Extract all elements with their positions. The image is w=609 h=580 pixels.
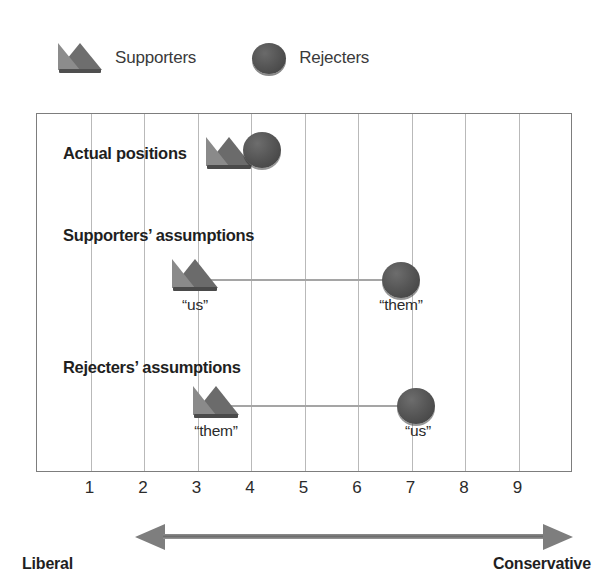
x-tick-2: 2 [128,478,158,498]
annotation-us-row2: “us” [155,296,235,314]
annotation-us-row3: “us” [378,422,458,440]
gridline-6 [358,114,359,471]
connector-line-row2 [188,279,403,281]
marker-circle-rejecters-row1 [243,132,281,168]
arrow-right-icon [543,524,573,550]
marker-circle-rejecters-row2 [382,262,420,298]
axis-label-liberal: Liberal [22,555,73,573]
x-tick-9: 9 [503,478,533,498]
row-label-actual-positions: Actual positions [63,144,187,163]
connector-line-row3 [214,405,418,407]
legend-item-supporters: Supporters [58,43,196,73]
legend-label-rejecters: Rejecters [299,48,369,68]
axis-label-conservative: Conservative [493,555,591,573]
marker-triangle-supporters-row2 [172,259,218,291]
annotation-them-row2: “them” [361,296,441,314]
legend-label-supporters: Supporters [115,48,196,68]
x-tick-6: 6 [342,478,372,498]
arrow-left-icon [135,524,165,550]
gridline-1 [91,114,92,471]
gridline-5 [305,114,306,471]
x-tick-7: 7 [396,478,426,498]
marker-triangle-supporters-row3 [193,386,239,418]
chart-figure: Supporters Rejecters Actual positions [0,0,609,580]
row-label-supporters-assumptions: Supporters’ assumptions [63,226,254,245]
gridline-9 [519,114,520,471]
spectrum-arrow [135,524,573,550]
x-tick-1: 1 [75,478,105,498]
circle-icon [252,43,286,74]
gridline-2 [144,114,145,471]
plot-area: Actual positions Supporters’ assumptions… [36,113,572,472]
legend-item-rejecters: Rejecters [252,43,369,74]
x-tick-3: 3 [182,478,212,498]
row-label-rejecters-assumptions: Rejecters’ assumptions [63,358,241,377]
chart-legend: Supporters Rejecters [58,36,369,80]
marker-circle-rejecters-row3 [397,388,435,424]
triangle-icon [58,43,102,73]
x-tick-4: 4 [235,478,265,498]
annotation-them-row3: “them” [176,422,256,440]
x-tick-8: 8 [449,478,479,498]
gridline-8 [465,114,466,471]
arrow-shaft [163,534,545,539]
x-tick-5: 5 [289,478,319,498]
